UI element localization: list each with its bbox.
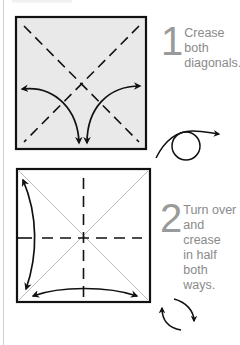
step-number: 1 — [161, 25, 182, 57]
step-2-instruction: 2 Turn over and crease in half both ways… — [160, 202, 240, 293]
step-text: Crease both diagonals. — [184, 25, 240, 71]
rotate-icon — [162, 299, 194, 330]
step-number: 2 — [160, 202, 181, 234]
step-text: Turn over and crease in half both ways. — [183, 202, 240, 293]
turn-over-icon — [156, 131, 219, 160]
step-1-instruction: 1 Crease both diagonals. — [161, 25, 240, 71]
step2-paper — [17, 169, 150, 302]
step1-paper — [16, 17, 146, 149]
